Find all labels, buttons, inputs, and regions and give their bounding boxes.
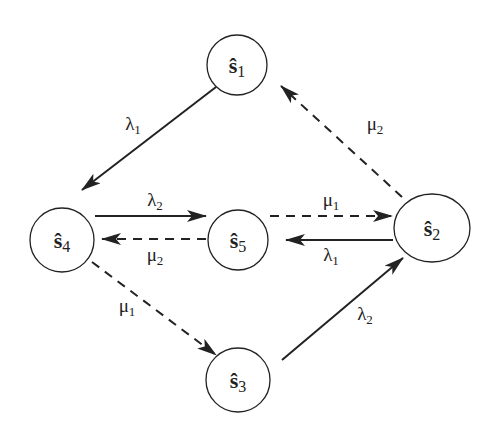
edge-symbol: λ bbox=[125, 113, 134, 134]
edge-index: 1 bbox=[332, 253, 339, 268]
edge-index: 2 bbox=[377, 122, 384, 137]
node-label-s2: ŝ2 bbox=[424, 216, 441, 244]
node-label-s3: ŝ3 bbox=[230, 368, 247, 396]
node-index: 2 bbox=[432, 226, 440, 243]
node-index: 3 bbox=[238, 378, 246, 395]
state-diagram: ŝ1 ŝ2 ŝ3 ŝ4 ŝ5 λ1 μ2 λ2 μ2 μ1 λ1 μ1 λ2 bbox=[0, 0, 497, 438]
node-label-s5: ŝ5 bbox=[230, 228, 247, 256]
node-index: 4 bbox=[62, 238, 70, 255]
edge-label-s4-s3: μ1 bbox=[119, 295, 136, 320]
edge-index: 2 bbox=[156, 198, 163, 213]
edge-label-s3-s2: λ2 bbox=[357, 303, 373, 328]
edge-index: 2 bbox=[366, 312, 373, 327]
edge-symbol: λ bbox=[323, 244, 332, 265]
edge-label-s2-s1: μ2 bbox=[367, 113, 384, 138]
node-label-s1: ŝ1 bbox=[229, 53, 246, 81]
edge-s1-s4 bbox=[82, 87, 216, 190]
edge-label-s5-s2: μ1 bbox=[323, 189, 340, 214]
node-symbol: ŝ bbox=[424, 216, 433, 241]
node-index: 1 bbox=[237, 63, 245, 80]
edge-symbol: λ bbox=[357, 303, 366, 324]
edge-label-s4-s5: λ2 bbox=[147, 189, 163, 214]
edge-symbol: λ bbox=[147, 189, 156, 210]
edge-label-s1-s4: λ1 bbox=[125, 113, 141, 138]
edge-index: 1 bbox=[333, 198, 340, 213]
node-symbol: ŝ bbox=[230, 228, 239, 253]
node-symbol: ŝ bbox=[229, 53, 238, 78]
edge-symbol: μ bbox=[323, 189, 333, 210]
edge-symbol: μ bbox=[147, 244, 157, 265]
diagram-graphics bbox=[0, 0, 497, 438]
edge-index: 2 bbox=[157, 253, 164, 268]
edge-index: 1 bbox=[129, 304, 136, 319]
node-label-s4: ŝ4 bbox=[54, 228, 71, 256]
edge-label-s5-s4: μ2 bbox=[147, 244, 164, 269]
node-symbol: ŝ bbox=[54, 228, 63, 253]
edge-s3-s2 bbox=[282, 258, 403, 360]
node-symbol: ŝ bbox=[230, 368, 239, 393]
node-index: 5 bbox=[238, 238, 246, 255]
edge-s2-s1 bbox=[281, 86, 402, 197]
edge-label-s2-s5: λ1 bbox=[323, 244, 339, 269]
edge-symbol: μ bbox=[119, 295, 129, 316]
edge-symbol: μ bbox=[367, 113, 377, 134]
edge-index: 1 bbox=[134, 122, 141, 137]
edge-s4-s3 bbox=[92, 262, 216, 355]
